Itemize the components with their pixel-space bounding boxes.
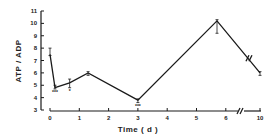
significance-marker: *** [52, 89, 58, 95]
y-axis-label: ATP / ADP [14, 39, 23, 82]
x-tick-label: 10 [257, 115, 264, 121]
x-tick-label: 6 [224, 115, 228, 121]
x-tick-label: 0 [48, 115, 52, 121]
y-tick-label: 3 [34, 107, 38, 113]
x-axis-label: Time ( d ) [118, 125, 158, 134]
data-series: ******* [49, 20, 262, 109]
y-tick-label: 5 [34, 82, 38, 88]
significance-marker: * [69, 88, 71, 94]
x-tick-label: 4 [166, 115, 170, 121]
y-tick-label: 8 [34, 45, 38, 51]
y-tick-label: 7 [34, 58, 38, 64]
x-tick-label: 2 [107, 115, 111, 121]
series-line [50, 21, 260, 100]
y-axis: 34567891011 [30, 8, 44, 113]
x-tick-label: 5 [195, 115, 199, 121]
atp-adp-line-chart: 34567891011 012345610 ******* ATP / ADP … [0, 0, 274, 137]
significance-marker: *** [135, 103, 141, 109]
y-tick-label: 9 [34, 33, 38, 39]
x-tick-label: 3 [136, 115, 140, 121]
y-tick-label: 6 [34, 70, 38, 76]
y-tick-label: 4 [34, 95, 38, 101]
y-tick-label: 11 [31, 8, 38, 14]
x-axis: 012345610 [48, 108, 264, 121]
y-tick-label: 10 [30, 20, 37, 26]
x-tick-label: 1 [78, 115, 82, 121]
